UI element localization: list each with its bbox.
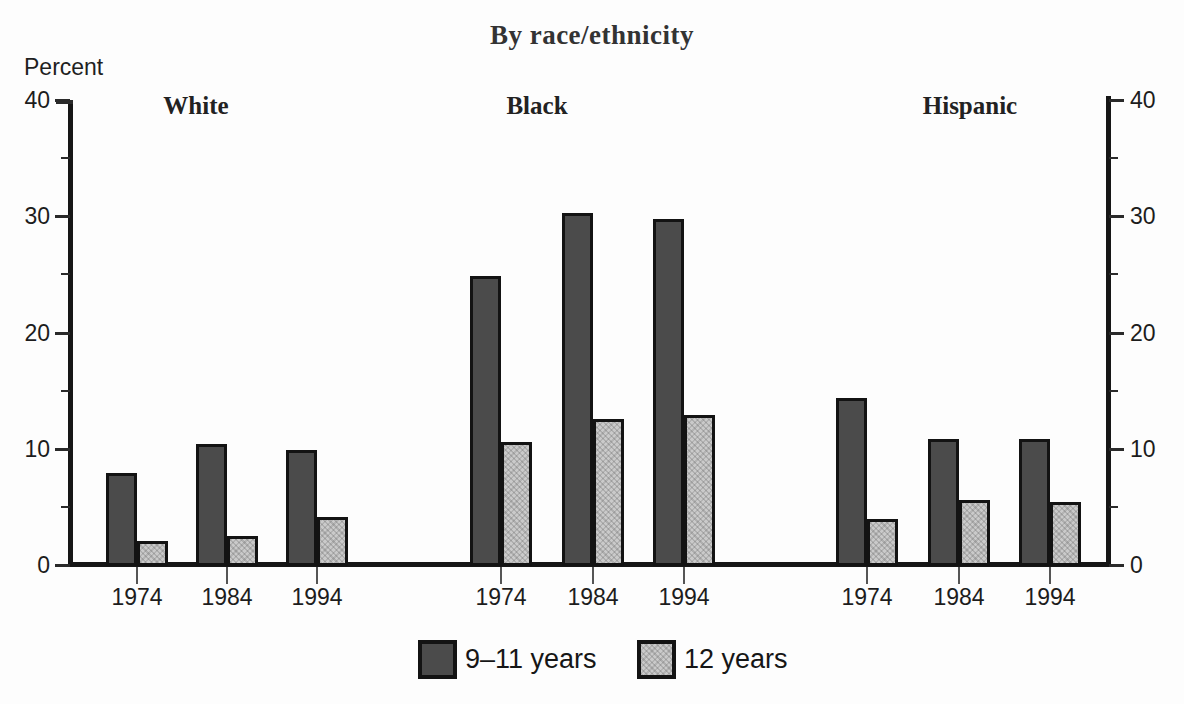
y-tick-label-right-0: 0: [1130, 551, 1180, 579]
bar-white-1984-12-years: [227, 536, 258, 566]
y-major-tick-right-10: [1109, 448, 1124, 451]
y-axis-unit-label: Percent: [24, 54, 103, 81]
y-major-tick-left-10: [55, 448, 70, 451]
bar-hispanic-1974-9-11-years: [836, 398, 867, 566]
legend-swatch-9-11-years: [418, 640, 457, 679]
y-major-tick-right-30: [1109, 215, 1124, 218]
x-tick-label-white-1974: 1974: [92, 584, 182, 611]
bar-hispanic-1974-12-years: [867, 519, 898, 567]
bar-white-1994-9-11-years: [286, 450, 317, 566]
y-tick-label-right-20: 20: [1130, 319, 1180, 347]
x-tick-white-1984: [226, 567, 228, 584]
bar-hispanic-1984-9-11-years: [928, 439, 959, 566]
chart-figure: By race/ethnicity Percent 00101020203030…: [0, 0, 1184, 704]
bar-white-1994-12-years: [317, 517, 348, 566]
group-label-white: White: [106, 92, 286, 120]
x-tick-black-1984: [592, 567, 594, 584]
y-major-tick-left-20: [55, 332, 70, 335]
y-major-tick-left-0: [55, 564, 70, 567]
y-major-tick-right-0: [1109, 564, 1124, 567]
x-tick-label-black-1974: 1974: [456, 584, 546, 611]
y-tick-label-left-40: 40: [0, 86, 50, 114]
y-minor-tick-right-5: [1109, 506, 1118, 508]
bar-black-1974-9-11-years: [470, 276, 501, 566]
y-tick-label-left-0: 0: [0, 551, 50, 579]
legend-swatch-12-years: [637, 640, 676, 679]
group-label-black: Black: [447, 92, 627, 120]
x-tick-label-hispanic-1974: 1974: [822, 584, 912, 611]
x-tick-label-black-1984: 1984: [548, 584, 638, 611]
bar-white-1974-9-11-years: [106, 473, 137, 566]
y-minor-tick-left-25: [61, 273, 70, 275]
bar-hispanic-1994-12-years: [1050, 502, 1081, 566]
x-tick-label-white-1984: 1984: [182, 584, 272, 611]
y-tick-label-right-40: 40: [1130, 86, 1180, 114]
bar-black-1974-12-years: [501, 442, 532, 566]
bar-black-1994-12-years: [684, 415, 715, 566]
y-tick-label-left-20: 20: [0, 319, 50, 347]
x-tick-label-black-1994: 1994: [639, 584, 729, 611]
y-minor-tick-left-5: [61, 506, 70, 508]
y-minor-tick-left-35: [61, 157, 70, 159]
x-tick-label-hispanic-1984: 1984: [914, 584, 1004, 611]
y-tick-label-right-30: 30: [1130, 202, 1180, 230]
y-major-tick-left-30: [55, 215, 70, 218]
x-tick-black-1974: [500, 567, 502, 584]
y-minor-tick-right-25: [1109, 273, 1118, 275]
legend-label-12-years: 12 years: [684, 640, 788, 679]
bar-black-1984-9-11-years: [562, 213, 593, 566]
bar-white-1974-12-years: [137, 541, 168, 566]
x-tick-label-hispanic-1994: 1994: [1005, 584, 1095, 611]
legend-label-9-11-years: 9–11 years: [465, 640, 597, 679]
y-minor-tick-left-15: [61, 390, 70, 392]
x-tick-white-1974: [136, 567, 138, 584]
y-tick-label-left-30: 30: [0, 202, 50, 230]
x-tick-white-1994: [316, 567, 318, 584]
y-major-tick-right-20: [1109, 332, 1124, 335]
bar-hispanic-1984-12-years: [959, 500, 990, 566]
y-major-tick-left-40: [55, 99, 70, 102]
bar-black-1994-9-11-years: [653, 219, 684, 566]
x-tick-hispanic-1984: [958, 567, 960, 584]
group-label-hispanic: Hispanic: [880, 92, 1060, 120]
x-tick-label-white-1994: 1994: [272, 584, 362, 611]
y-minor-tick-right-35: [1109, 157, 1118, 159]
bar-hispanic-1994-9-11-years: [1019, 439, 1050, 566]
y-tick-label-right-10: 10: [1130, 435, 1180, 463]
y-minor-tick-right-15: [1109, 390, 1118, 392]
bar-black-1984-12-years: [593, 419, 624, 566]
x-tick-hispanic-1994: [1049, 567, 1051, 584]
bar-white-1984-9-11-years: [196, 444, 227, 566]
y-tick-label-left-10: 10: [0, 435, 50, 463]
y-major-tick-right-40: [1109, 99, 1124, 102]
x-tick-hispanic-1974: [866, 567, 868, 584]
chart-title: By race/ethnicity: [0, 20, 1184, 51]
x-tick-black-1994: [683, 567, 685, 584]
